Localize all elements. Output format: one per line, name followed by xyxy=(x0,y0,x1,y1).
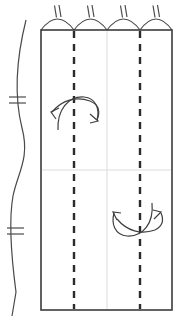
pleat-arc-3 xyxy=(107,5,140,30)
arc-tick-1b xyxy=(59,5,61,17)
arc-tick-2b xyxy=(92,5,94,17)
schematic-drawing xyxy=(0,0,187,319)
arc-tick-3b xyxy=(125,5,127,17)
arc-tick-4a xyxy=(153,6,155,18)
arrowhead-lower-right xyxy=(153,210,161,219)
arc-tick-2a xyxy=(88,6,90,18)
arrowhead-upper-left xyxy=(51,108,59,119)
arrowhead-lower-left xyxy=(113,212,121,220)
arc-path-2 xyxy=(74,19,107,30)
arc-tick-3a xyxy=(121,6,123,18)
pleat-arc-4 xyxy=(140,5,172,30)
lower-arrow-curve xyxy=(113,203,152,236)
lower-drape-arrow xyxy=(113,203,163,236)
diagram-canvas xyxy=(0,0,187,319)
wavy-tick-lower xyxy=(7,228,24,234)
arc-tick-4b xyxy=(158,5,160,17)
wavy-edge-path xyxy=(11,20,26,316)
pleat-arc-group xyxy=(41,5,172,30)
arc-path-3 xyxy=(107,19,140,30)
arc-path-1 xyxy=(41,19,74,30)
pleat-arc-1 xyxy=(41,5,74,30)
selvage-wavy-edge xyxy=(7,20,26,316)
arc-path-4 xyxy=(140,19,172,30)
arc-tick-1a xyxy=(55,6,57,18)
pleat-arc-2 xyxy=(74,5,107,30)
